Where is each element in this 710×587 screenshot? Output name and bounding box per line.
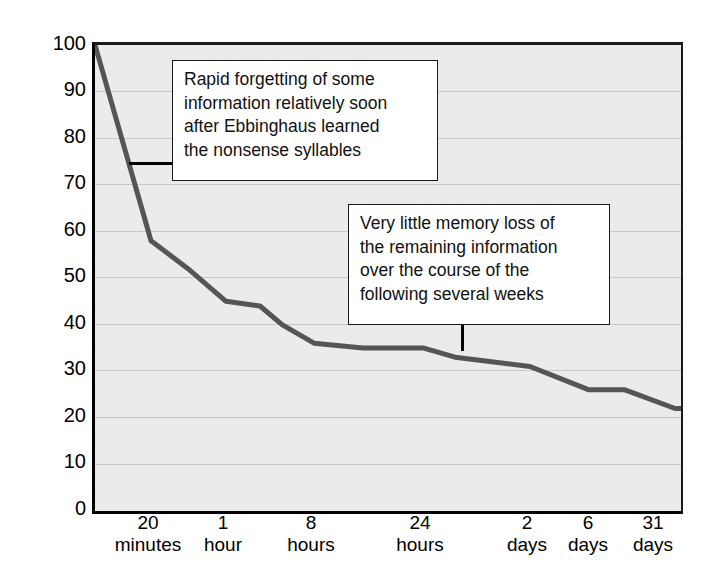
annotation-line: Rapid forgetting of some [184,68,427,92]
x-tick-label-31-days: 31 days [633,512,673,556]
y-tick-label: 10 [40,451,86,471]
x-tick-label-6-days: 6 days [568,512,608,556]
x-tick-label-8-hours: 8 hours [287,512,335,556]
x-tick-line2: days [568,534,608,556]
x-tick-line2: days [507,534,547,556]
x-tick-label-24-hours: 24 hours [396,512,444,556]
annotation-line: following several weeks [360,283,599,307]
annotation-line: the nonsense syllables [184,139,427,163]
y-tick-label: 50 [40,265,86,285]
x-tick-line2: hours [396,534,444,556]
annotation-line: Very little memory loss of [360,212,599,236]
x-tick-line1: 20 [115,512,182,534]
x-tick-line2: hours [287,534,335,556]
x-tick-line1: 8 [287,512,335,534]
x-tick-label-2-days: 2 days [507,512,547,556]
y-tick-label: 40 [40,312,86,332]
x-tick-line1: 24 [396,512,444,534]
annotation-line: the remaining information [360,236,599,260]
y-tick-label: 30 [40,358,86,378]
x-tick-line1: 2 [507,512,547,534]
x-tick-line1: 1 [204,512,242,534]
y-tick-label: 60 [40,219,86,239]
x-tick-line2: hour [204,534,242,556]
y-tick-label: 0 [40,498,86,518]
y-tick-label: 80 [40,126,86,146]
x-tick-label-20-minutes: 20 minutes [115,512,182,556]
callout-leader-line-2 [461,324,464,351]
y-tick-label: 70 [40,172,86,192]
annotation-line: over the course of the [360,259,599,283]
y-tick-label: 100 [40,33,86,53]
x-tick-label-1-hour: 1 hour [204,512,242,556]
forgetting-curve-chart: Average Percentage of Information Retain… [0,0,710,587]
annotation-line: information relatively soon [184,92,427,116]
y-tick-label: 20 [40,405,86,425]
y-tick-label: 90 [40,79,86,99]
annotation-little-memory-loss: Very little memory loss of the remaining… [348,204,610,325]
callout-leader-line-1 [129,162,173,165]
annotation-rapid-forgetting: Rapid forgetting of some information rel… [172,60,438,181]
y-axis-tick-labels: 100 90 80 70 60 50 40 30 20 10 0 [34,0,86,560]
x-tick-line1: 31 [633,512,673,534]
x-tick-line2: minutes [115,534,182,556]
annotation-line: after Ebbinghaus learned [184,115,427,139]
x-tick-line2: days [633,534,673,556]
x-tick-line1: 6 [568,512,608,534]
